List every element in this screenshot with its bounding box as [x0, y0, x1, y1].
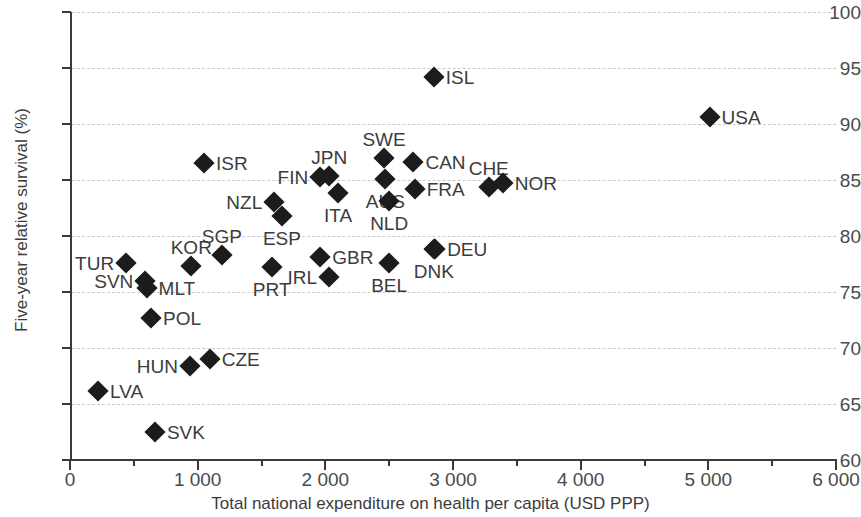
data-point-label-isr: ISR [216, 154, 248, 173]
data-point-label-ita: ITA [324, 206, 352, 225]
data-point-label-svn: SVN [94, 272, 133, 291]
x-axis-title: Total national expenditure on health per… [0, 494, 861, 514]
data-point-svk [144, 421, 165, 442]
scatter-chart: 6065707580859095100 01 0002 0003 0004 00… [0, 0, 861, 517]
data-point-label-bel: BEL [371, 276, 407, 295]
data-point-kor [181, 256, 202, 277]
data-point-cze [199, 349, 220, 370]
data-point-can [403, 151, 424, 172]
data-point-label-nor: NOR [515, 174, 557, 193]
data-point-label-lva: LVA [110, 382, 143, 401]
data-point-label-esp: ESP [263, 229, 301, 248]
data-point-label-fin: FIN [278, 168, 309, 187]
data-point-pol [140, 307, 161, 328]
data-point-label-dnk: DNK [414, 262, 454, 281]
data-point-hun [179, 355, 200, 376]
data-point-label-fra: FRA [427, 180, 465, 199]
data-point-ita [327, 183, 348, 204]
data-point-label-usa: USA [722, 108, 761, 127]
data-point-label-swe: SWE [362, 130, 405, 149]
data-point-label-cze: CZE [222, 350, 260, 369]
data-point-isl [423, 66, 444, 87]
data-point-prt [261, 257, 282, 278]
data-point-label-pol: POL [163, 309, 201, 328]
data-point-gbr [310, 247, 331, 268]
data-point-irl [319, 267, 340, 288]
data-point-swe [373, 147, 394, 168]
data-point-label-irl: IRL [288, 268, 318, 287]
data-point-usa [699, 107, 720, 128]
data-point-lva [87, 380, 108, 401]
data-point-label-jpn: JPN [311, 148, 347, 167]
data-point-label-nzl: NZL [226, 193, 262, 212]
data-point-aus [375, 168, 396, 189]
data-point-label-deu: DEU [447, 240, 487, 259]
data-point-label-isl: ISL [446, 68, 475, 87]
data-point-label-can: CAN [425, 153, 465, 172]
data-point-label-hun: HUN [137, 357, 178, 376]
y-axis-title: Five-year relative survival (%) [12, 90, 32, 350]
data-point-label-svk: SVK [167, 423, 205, 442]
data-points-layer: LVATURSVNMLTPOLSVKHUNCZEKORISRSGPPRTNZLE… [0, 0, 861, 517]
data-point-sgp [211, 244, 232, 265]
data-point-label-mlt: MLT [159, 279, 196, 298]
data-point-bel [379, 252, 400, 273]
data-point-deu [425, 239, 446, 260]
data-point-label-sgp: SGP [202, 227, 242, 246]
data-point-isr [193, 153, 214, 174]
data-point-label-nld: NLD [370, 214, 408, 233]
data-point-label-gbr: GBR [332, 248, 373, 267]
data-point-label-prt: PRT [253, 280, 291, 299]
data-point-fra [404, 178, 425, 199]
